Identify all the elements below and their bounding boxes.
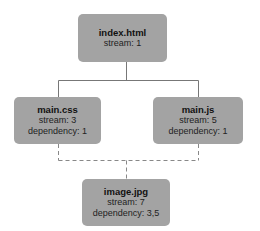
solid-edges: [59, 62, 199, 97]
dashed-edges: [59, 144, 199, 179]
node-stream: stream: 7: [107, 197, 145, 208]
node-dependency: dependency: 1: [168, 126, 227, 137]
node-stream: stream: 3: [39, 115, 77, 126]
node-index-html: index.html stream: 1: [78, 14, 167, 62]
node-title: main.css: [37, 104, 78, 115]
node-main-js: main.js stream: 5 dependency: 1: [153, 97, 243, 144]
node-stream: stream: 5: [179, 115, 217, 126]
node-dependency: dependency: 1: [28, 126, 87, 137]
node-dependency: dependency: 3,5: [93, 208, 160, 219]
node-title: main.js: [182, 104, 215, 115]
node-title: index.html: [99, 27, 147, 38]
node-title: image.jpg: [104, 186, 148, 197]
node-main-css: main.css stream: 3 dependency: 1: [14, 97, 101, 144]
node-image-jpg: image.jpg stream: 7 dependency: 3,5: [82, 179, 170, 226]
node-stream: stream: 1: [104, 38, 142, 49]
